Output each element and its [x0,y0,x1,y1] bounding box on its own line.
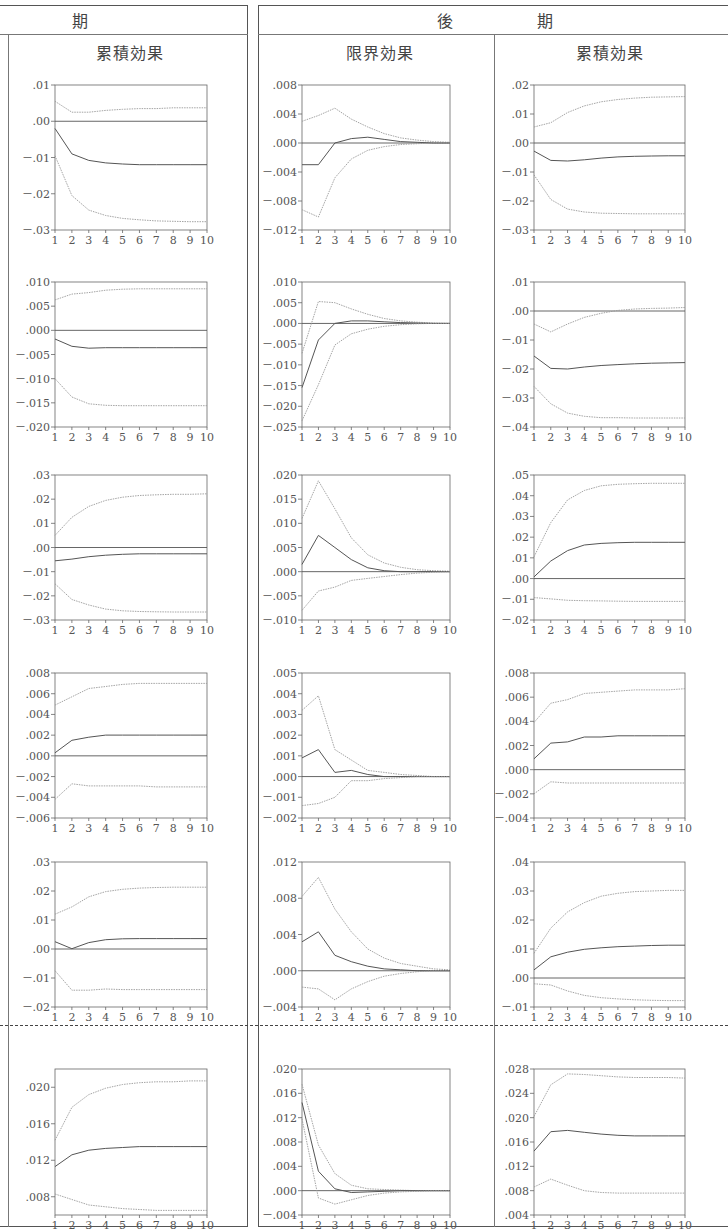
impulse-response-chart-r5c2: .012.008.004.000－.00412345678910 [302,862,450,1007]
x-tick-label: 6 [381,624,388,637]
y-tick-label: －.02 [501,195,530,208]
impulse-response-chart-r4c3: .008.006.004.002.000－.002－.0041234567891… [534,673,685,818]
plot-area [55,862,207,1007]
y-tick-label: .000 [505,764,530,777]
impulse-response-chart-r2c1: .010.005.000－.005－.010－.015－.02012345678… [55,282,207,427]
y-tick-label: .01 [33,914,51,927]
x-tick-label: 4 [348,234,355,247]
x-tick-label: 7 [397,822,404,835]
x-tick-label: 9 [665,1219,672,1232]
y-tick-label: －.004 [262,1001,298,1014]
y-tick-label: .005 [26,300,51,313]
x-tick-label: 8 [648,1219,655,1232]
y-tick-label: －.03 [501,224,530,237]
x-tick-label: 5 [598,624,605,637]
y-tick-label: －.002 [15,771,51,784]
x-tick-label: 9 [187,822,194,835]
x-tick-label: 4 [102,1011,109,1024]
x-tick-label: 6 [614,1011,621,1024]
x-tick-label: 5 [119,1219,126,1232]
x-tick-label: 6 [381,431,388,444]
y-tick-label: .020 [273,469,298,482]
series-lower [302,143,450,217]
plot-area [55,85,207,230]
y-tick-label: .010 [273,276,298,289]
x-tick-label: 3 [331,234,338,247]
plot-area [55,1069,207,1215]
x-tick-label: 5 [364,822,371,835]
x-tick-label: 2 [547,822,554,835]
plot-area [302,475,450,620]
x-tick-label: 5 [119,1011,126,1024]
x-tick-label: 10 [443,1219,457,1232]
y-tick-label: .012 [26,1154,51,1167]
x-tick-label: 7 [153,624,160,637]
column-divider-right [494,34,495,1227]
series-upper [302,1084,450,1191]
x-tick-label: 8 [648,1011,655,1024]
series-upper [55,683,207,705]
y-tick-label: －.02 [501,614,530,627]
plot-area [534,1069,685,1215]
y-tick-label: －.010 [15,373,51,386]
y-tick-label: .004 [273,929,298,942]
y-tick-label: －.01 [501,1001,530,1014]
impulse-response-chart-r3c3: .05.04.03.02.01.00－.01－.0212345678910 [534,475,685,620]
x-tick-label: 8 [414,234,421,247]
y-tick-label: －.01 [22,566,51,579]
x-tick-label: 4 [581,1219,588,1232]
plot-area [302,1069,450,1215]
y-tick-label: .008 [273,892,298,905]
impulse-response-chart-r6c2: .020.016.012.008.004.000－.00412345678910 [302,1069,450,1215]
y-tick-label: .003 [273,708,298,721]
x-tick-label: 1 [299,1011,306,1024]
x-tick-label: 3 [85,234,92,247]
plot-area [534,282,685,427]
x-tick-label: 3 [331,1011,338,1024]
x-tick-label: 6 [614,1219,621,1232]
y-tick-label: .016 [273,1087,298,1100]
x-tick-label: 1 [299,234,306,247]
impulse-response-chart-r1c3: .02.01.00－.01－.02－.0312345678910 [534,85,685,230]
x-tick-label: 4 [102,624,109,637]
y-tick-label: －.03 [22,614,51,627]
x-tick-label: 9 [665,1011,672,1024]
x-tick-label: 4 [102,431,109,444]
impulse-response-chart-r1c2: .008.004.000－.004－.008－.01212345678910 [302,85,450,230]
x-tick-label: 4 [102,822,109,835]
x-tick-label: 10 [678,624,692,637]
x-tick-label: 3 [564,822,571,835]
x-tick-label: 2 [68,822,75,835]
x-tick-label: 4 [348,624,355,637]
y-tick-label: －.01 [501,166,530,179]
y-tick-label: .008 [26,667,51,680]
series-response [534,736,685,759]
y-tick-label: .004 [505,715,530,728]
series-response [302,535,450,571]
x-tick-label: 7 [631,822,638,835]
y-tick-label: －.010 [262,359,298,372]
impulse-response-chart-r6c3: .028.024.020.016.012.008.00412345678910 [534,1069,685,1215]
y-tick-label: －.004 [262,1209,298,1222]
x-tick-label: 9 [430,1219,437,1232]
x-tick-label: 8 [170,1219,177,1232]
y-tick-label: .01 [33,517,51,530]
series-lower [302,572,450,611]
y-tick-label: －.005 [15,349,51,362]
x-tick-label: 6 [381,822,388,835]
series-response [534,542,685,577]
x-tick-label: 10 [678,1011,692,1024]
y-tick-label: .000 [273,317,298,330]
y-tick-label: .008 [505,1185,530,1198]
y-tick-label: .010 [273,517,298,530]
y-tick-label: .03 [512,885,530,898]
y-tick-label: .015 [273,493,298,506]
x-tick-label: 2 [315,1011,322,1024]
y-tick-label: .005 [273,667,298,680]
y-tick-label: .00 [33,115,51,128]
x-tick-label: 8 [170,1011,177,1024]
column-header-marginal-effect: 限界効果 [310,40,450,64]
plot-area [55,673,207,818]
y-tick-label: －.01 [22,152,51,165]
x-tick-label: 7 [397,234,404,247]
